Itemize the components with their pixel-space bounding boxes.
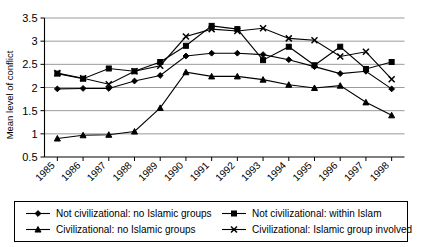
marker-square — [232, 211, 237, 216]
y-tick-label: 3.5 — [22, 12, 37, 24]
y-tick-label: 0.5 — [22, 151, 37, 163]
y-tick-label: 2 — [31, 82, 37, 94]
marker-square — [363, 66, 368, 71]
legend-label: Not civilizational: no Islamic groups — [56, 208, 212, 219]
y-axis-title: Mean level of conflict — [4, 50, 15, 139]
legend-label: Not civilizational: within Islam — [252, 208, 382, 219]
marker-square — [389, 60, 394, 65]
marker-square — [312, 63, 317, 68]
y-tick-label: 1 — [31, 128, 37, 140]
marker-square — [261, 58, 266, 63]
y-tick-label: 3 — [31, 35, 37, 47]
y-tick-label: 2.5 — [22, 58, 37, 70]
line-chart: 0.511.522.533.5 198519861987198819891990… — [0, 0, 422, 247]
marker-square — [338, 44, 343, 49]
legend-label: Civilizational: Islamic group involved — [252, 224, 412, 235]
marker-square — [286, 44, 291, 49]
chart-figure: 0.511.522.533.5 198519861987198819891990… — [0, 0, 422, 247]
legend-label: Civilizational: no Islamic groups — [56, 224, 196, 235]
y-tick-label: 1.5 — [22, 105, 37, 117]
marker-square — [106, 66, 111, 71]
marker-square — [183, 43, 188, 48]
